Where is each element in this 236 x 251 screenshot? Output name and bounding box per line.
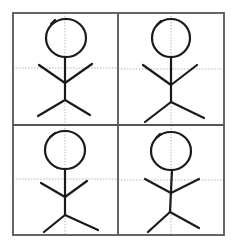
stick-figure-grid-diagram [0, 0, 236, 251]
